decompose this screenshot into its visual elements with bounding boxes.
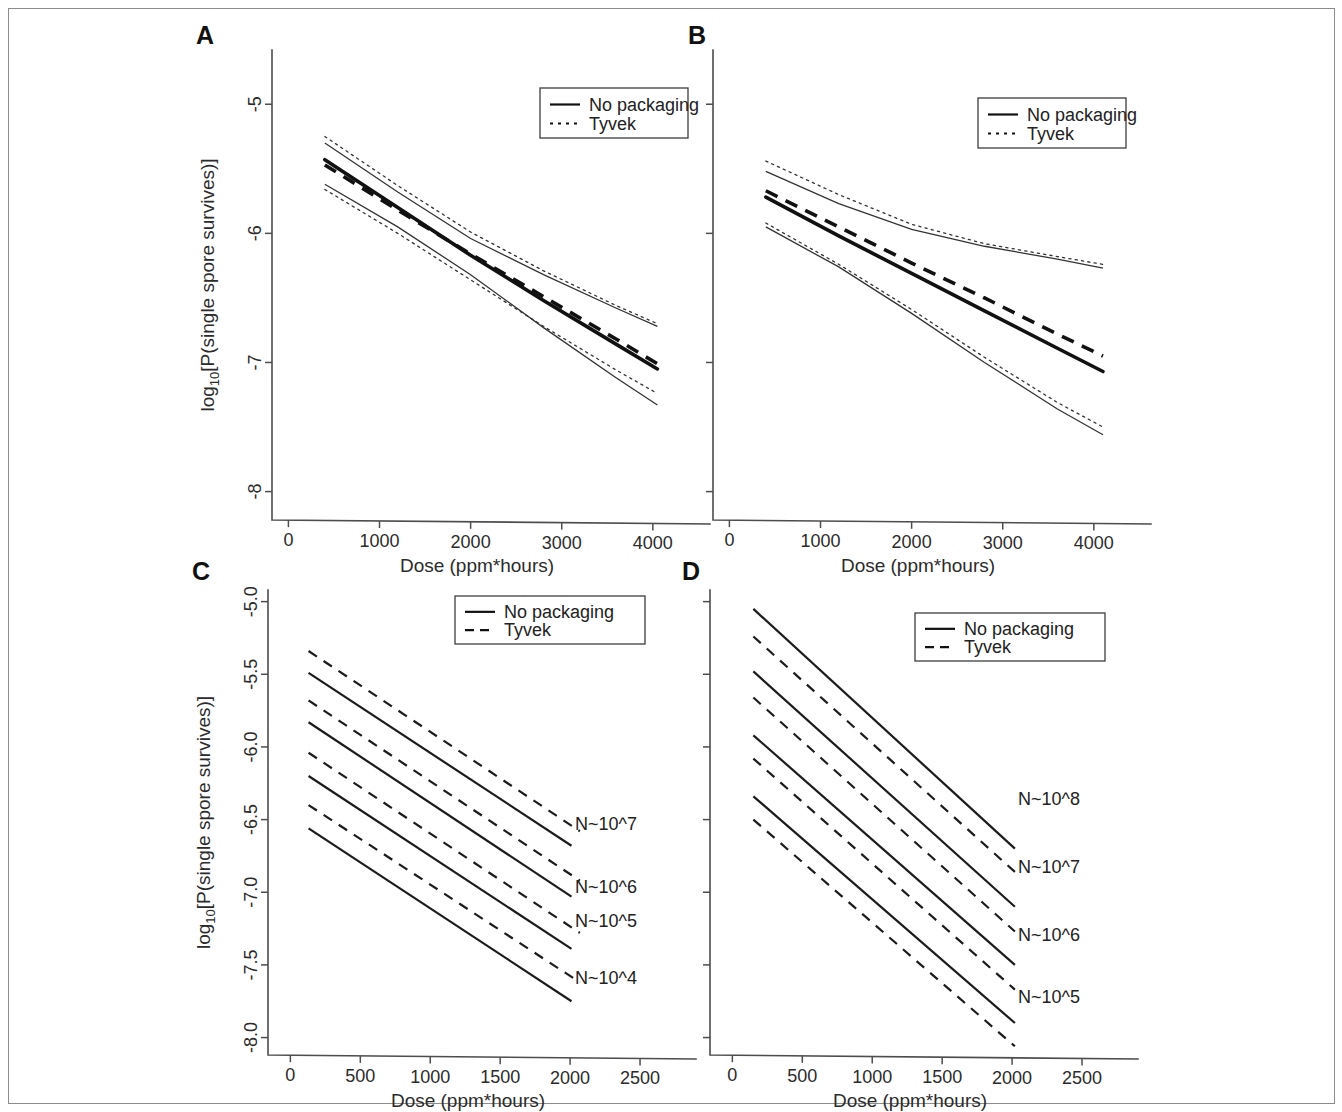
panel-tag-c: C (192, 557, 210, 585)
legend-label-no-packaging: No packaging (964, 619, 1074, 639)
x-tick-label: 1000 (800, 531, 840, 551)
x-axis-title: Dose (ppm*hours) (391, 1090, 545, 1111)
y-tick-label: -5.5 (241, 659, 261, 690)
curve-annotation-label: N~10^7 (575, 814, 637, 834)
y-axis-title-prefix: log (197, 386, 218, 411)
x-tick-label: 1000 (410, 1067, 450, 1087)
x-tick-label: 3000 (542, 533, 582, 553)
x-tick-label: 2000 (992, 1068, 1032, 1088)
curve-tyvek-ci-upper (325, 137, 658, 324)
figure-root: A-5-6-7-801000200030004000Dose (ppm*hour… (0, 0, 1342, 1112)
x-tick-label: 0 (285, 1065, 295, 1085)
y-axis-title-subscript: 10 (203, 909, 218, 923)
curve-no-packaging-N1e5 (309, 776, 572, 949)
curve-no-packaging-ci-upper (766, 171, 1103, 268)
curve-no-packaging-N1e7 (753, 671, 1015, 906)
figure-chart-canvas: A-5-6-7-801000200030004000Dose (ppm*hour… (0, 0, 1342, 1112)
x-tick-label: 1000 (852, 1067, 892, 1087)
curve-tyvek-N1e5 (753, 820, 1015, 1047)
curve-annotation-label: N~10^6 (1018, 925, 1080, 945)
curve-tyvek-ci-lower (325, 189, 658, 393)
x-tick-label: 0 (283, 530, 293, 550)
y-tick-label: -7 (245, 354, 265, 370)
y-tick-label: -8 (245, 484, 265, 500)
legend-label-no-packaging: No packaging (504, 602, 614, 622)
y-axis-title-prefix: log (193, 924, 214, 949)
curve-tyvek-N1e7 (309, 651, 580, 831)
y-tick-label: -7.0 (241, 877, 261, 908)
x-tick-label: 0 (727, 1065, 737, 1085)
y-tick-label: -6.0 (241, 731, 261, 762)
x-tick-label: 500 (345, 1066, 375, 1086)
curve-tyvek-N1e8 (753, 637, 1015, 872)
curve-annotation-label: N~10^7 (1018, 857, 1080, 877)
x-tick-label: 2000 (451, 532, 491, 552)
panel-tag-a: A (196, 21, 214, 49)
legend-label-no-packaging: No packaging (1027, 105, 1137, 125)
curve-tyvek-N1e5 (309, 753, 580, 933)
y-tick-label: -5.0 (241, 586, 261, 617)
curve-annotation-label: N~10^8 (1018, 789, 1080, 809)
curve-tyvek-N1e6 (309, 700, 580, 880)
curve-no-packaging-N1e5 (753, 796, 1015, 1023)
x-tick-label: 2000 (550, 1068, 590, 1088)
curve-tyvek-N1e7 (753, 698, 1015, 932)
curve-no-packaging-fit (325, 160, 658, 369)
x-tick-label: 2000 (892, 532, 932, 552)
panel-tag-b: B (688, 21, 706, 49)
y-tick-label: -6 (245, 225, 265, 241)
y-tick-label: -7.5 (241, 949, 261, 980)
legend-label-tyvek: Tyvek (589, 114, 637, 134)
x-tick-label: 1000 (359, 531, 399, 551)
curve-no-packaging-N1e6 (753, 735, 1015, 965)
panel-c: C-5.0-5.5-6.0-6.5-7.0-7.5-8.005001000150… (192, 557, 696, 1111)
curve-no-packaging-fit (766, 197, 1103, 371)
x-tick-label: 500 (787, 1066, 817, 1086)
y-axis-title-subscript: 10 (207, 372, 222, 386)
curve-annotation-label: N~10^5 (575, 911, 637, 931)
y-axis-title: log10[P(single spore survives)] (197, 158, 222, 411)
x-tick-label: 4000 (633, 533, 673, 553)
legend-label-tyvek: Tyvek (1027, 124, 1075, 144)
x-axis-title: Dose (ppm*hours) (841, 555, 995, 576)
panel-a: A-5-6-7-801000200030004000Dose (ppm*hour… (196, 21, 710, 576)
curve-no-packaging-ci-lower (325, 184, 658, 405)
x-tick-label: 2500 (1062, 1068, 1102, 1088)
legend-label-no-packaging: No packaging (589, 95, 699, 115)
x-axis-title: Dose (ppm*hours) (400, 555, 554, 576)
curve-annotation-label: N~10^6 (575, 877, 637, 897)
panel-d: D05001000150020002500Dose (ppm*hours)N~1… (682, 557, 1138, 1111)
x-tick-label: 3000 (983, 533, 1023, 553)
curve-tyvek-fit (766, 191, 1103, 356)
curve-tyvek-N1e6 (753, 759, 1015, 990)
x-tick-label: 0 (724, 530, 734, 550)
legend-label-tyvek: Tyvek (504, 620, 552, 640)
curve-tyvek-ci-upper (766, 161, 1103, 264)
y-tick-label: -8.0 (241, 1022, 261, 1053)
curve-tyvek-ci-lower (766, 223, 1103, 427)
x-tick-label: 4000 (1074, 533, 1114, 553)
curve-no-packaging-N1e6 (309, 722, 572, 896)
x-tick-label: 1500 (922, 1067, 962, 1087)
y-axis-title-suffix: [P(single spore survives)] (193, 696, 214, 909)
curve-annotation-label: N~10^5 (1018, 987, 1080, 1007)
curve-no-packaging-N1e7 (309, 673, 572, 846)
panel-b: B01000200030004000Dose (ppm*hours)No pac… (688, 21, 1151, 576)
panel-tag-d: D (682, 557, 700, 585)
y-axis-title-suffix: [P(single spore survives)] (197, 158, 218, 371)
curve-tyvek-fit (325, 165, 658, 364)
legend-label-tyvek: Tyvek (964, 637, 1012, 657)
x-tick-label: 2500 (620, 1068, 660, 1088)
curve-tyvek-N1e4 (309, 805, 580, 982)
y-tick-label: -5 (245, 96, 265, 112)
y-axis-title: log10[P(single spore survives)] (193, 696, 218, 949)
x-tick-label: 1500 (480, 1067, 520, 1087)
y-tick-label: -6.5 (241, 804, 261, 835)
curve-annotation-label: N~10^4 (575, 968, 637, 988)
x-axis-title: Dose (ppm*hours) (833, 1090, 987, 1111)
curve-no-packaging-N1e4 (309, 828, 572, 1001)
